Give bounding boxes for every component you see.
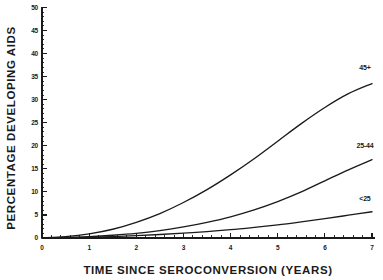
y-tick-label: 40 <box>31 50 38 57</box>
y-tick-label: 20 <box>31 142 38 149</box>
series-label: 25-44 <box>356 142 373 149</box>
y-axis-title: PERCENTAGE DEVELOPING AIDS <box>5 26 17 229</box>
y-tick-label: 45 <box>31 27 38 34</box>
y-tick-label: 35 <box>31 73 38 80</box>
y-axis-tick-labels: 05101520253035404550 <box>31 4 38 242</box>
y-tick-label: 50 <box>31 4 38 11</box>
y-tick-label: 0 <box>35 234 39 241</box>
x-axis-title: TIME SINCE SEROCONVERSION (YEARS) <box>83 264 332 276</box>
series-curve <box>42 84 372 238</box>
x-tick-label: 0 <box>40 244 44 251</box>
x-tick-label: 2 <box>135 244 139 251</box>
axes-group <box>42 7 375 238</box>
series-curve <box>42 160 372 238</box>
chart-figure: 05101520253035404550 01234567 45+25-44<2… <box>0 0 383 280</box>
x-tick-label: 4 <box>229 244 233 251</box>
series-label: <25 <box>359 195 371 202</box>
y-tick-label: 30 <box>31 96 38 103</box>
x-tick-label: 1 <box>87 244 91 251</box>
y-axis-ticks <box>42 8 47 239</box>
x-tick-label: 3 <box>182 244 186 251</box>
y-tick-label: 15 <box>31 165 38 172</box>
x-tick-label: 5 <box>276 244 280 251</box>
y-tick-label: 5 <box>35 211 39 218</box>
data-curves <box>42 84 372 238</box>
series-label: 45+ <box>359 64 370 71</box>
y-tick-label: 25 <box>31 119 38 126</box>
line-chart-plot: 05101520253035404550 01234567 45+25-44<2… <box>0 0 383 280</box>
x-tick-label: 7 <box>370 244 374 251</box>
y-tick-label: 10 <box>31 188 38 195</box>
x-tick-label: 6 <box>323 244 327 251</box>
x-axis-tick-labels: 01234567 <box>40 244 374 251</box>
